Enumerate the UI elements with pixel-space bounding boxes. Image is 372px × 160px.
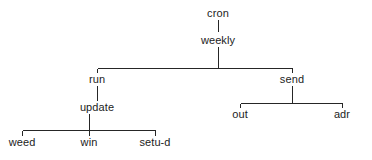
tree-node-run: run: [89, 74, 105, 85]
tree-node-adr: adr: [334, 109, 350, 120]
tree-edges-layer: [0, 0, 372, 160]
tree-node-weekly: weekly: [201, 35, 235, 46]
tree-node-update: update: [80, 102, 114, 113]
tree-node-weed: weed: [9, 137, 36, 148]
tree-node-send: send: [280, 74, 304, 85]
tree-node-out: out: [232, 109, 248, 120]
tree-diagram-canvas: cron weekly run send update out adr weed…: [0, 0, 372, 160]
tree-node-win: win: [81, 137, 98, 148]
tree-node-cron: cron: [207, 8, 229, 19]
tree-node-setu-d: setu-d: [139, 137, 170, 148]
